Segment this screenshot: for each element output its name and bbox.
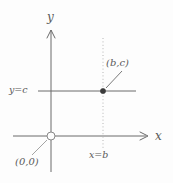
coordinate-plane-figure: y x y=c x=b (b,c) (0,0) (0, 0, 173, 183)
intersection-point-label: (b,c) (106, 58, 129, 68)
intersection-leader-line (106, 71, 122, 88)
intersection-point-marker (100, 88, 105, 93)
origin-point-marker (47, 132, 55, 140)
x-axis-label: x (155, 130, 162, 142)
origin-leader-line (32, 140, 47, 155)
vertical-line-label: x=b (89, 150, 108, 160)
horizontal-line-label: y=c (9, 85, 28, 95)
y-axis-label: y (47, 11, 54, 23)
origin-point-label: (0,0) (15, 157, 39, 167)
